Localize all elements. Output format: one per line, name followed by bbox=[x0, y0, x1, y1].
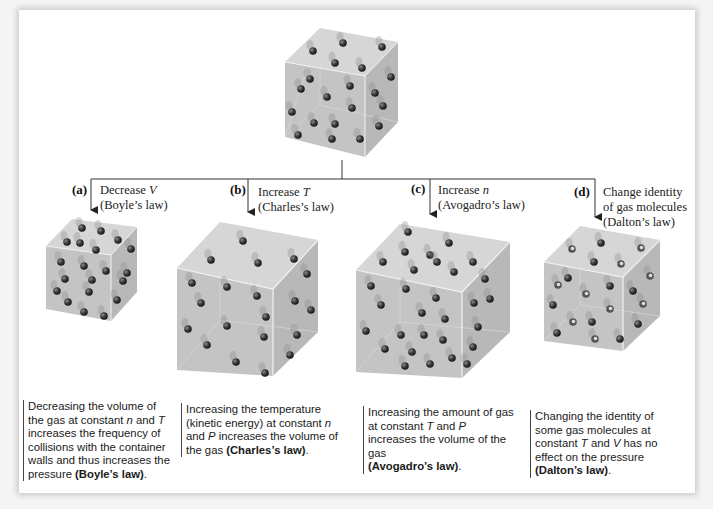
branch-a-label: Decrease V (Boyle’s law) bbox=[100, 183, 168, 213]
branch-b-variable: T bbox=[303, 185, 310, 199]
caption-a-boyles-law: Decreasing the volume of the gas at cons… bbox=[23, 400, 170, 481]
caption-d-var-1: T bbox=[581, 437, 588, 449]
caption-a-text-2: and bbox=[133, 414, 158, 426]
caption-c-var-2: P bbox=[458, 420, 466, 432]
branch-c-label: Increase n (Avogadro’s law) bbox=[438, 183, 525, 213]
caption-d-daltons-law: Changing the identity of some gas molecu… bbox=[530, 410, 681, 478]
caption-d-law: (Dalton’s law) bbox=[535, 464, 608, 476]
caption-c-text-2: and bbox=[433, 420, 458, 432]
caption-b-charles-law: Increasing the temperature (kinetic ener… bbox=[181, 403, 346, 457]
cube-d-changed-identity bbox=[544, 226, 660, 351]
branch-a-variable: V bbox=[149, 183, 157, 197]
cube-a-decreased-volume bbox=[46, 217, 137, 321]
caption-d-text-2: and bbox=[588, 437, 613, 449]
caption-c-law: (Avogadro’s law) bbox=[368, 460, 458, 472]
branch-c-change: Increase bbox=[438, 183, 483, 197]
cube-b-increased-temperature bbox=[177, 222, 318, 377]
initial-gas-container-cube bbox=[285, 28, 398, 157]
cube-c-increased-moles bbox=[356, 221, 510, 378]
branch-d-label: Change identity of gas molecules (Dalton… bbox=[603, 185, 695, 230]
branch-d-tag: (d) bbox=[574, 184, 590, 200]
caption-b-period: . bbox=[306, 444, 309, 456]
caption-b-text-2: and bbox=[186, 430, 208, 442]
caption-a-law: (Boyle’s law) bbox=[75, 468, 144, 480]
caption-c-avogadros-law: Increasing the amount of gas at constant… bbox=[363, 406, 516, 474]
caption-c-period: . bbox=[458, 460, 461, 472]
branch-b-label: Increase T (Charles’s law) bbox=[258, 185, 334, 215]
branch-c-variable: n bbox=[483, 183, 489, 197]
branch-a-tag: (a) bbox=[72, 182, 87, 198]
branch-c-tag: (c) bbox=[411, 181, 425, 197]
branch-c-law: (Avogadro’s law) bbox=[438, 198, 525, 212]
caption-b-var-1: n bbox=[325, 417, 331, 429]
caption-d-period: . bbox=[608, 464, 611, 476]
branch-b-change: Increase bbox=[258, 185, 303, 199]
caption-a-var-2: T bbox=[158, 414, 165, 426]
caption-b-text-1: Increasing the temperature (kinetic ener… bbox=[186, 403, 325, 429]
caption-c-text-3: increases the volume of the gas bbox=[368, 433, 506, 459]
branch-b-tag: (b) bbox=[230, 182, 246, 198]
caption-b-var-2: P bbox=[208, 430, 216, 442]
branch-a-change: Decrease bbox=[100, 183, 149, 197]
caption-a-period: . bbox=[144, 468, 147, 480]
branch-b-law: (Charles’s law) bbox=[258, 200, 334, 214]
branch-a-law: (Boyle’s law) bbox=[100, 198, 168, 212]
caption-b-law: (Charles’s law) bbox=[226, 444, 305, 456]
branch-d-change: Change identity of gas molecules bbox=[603, 185, 687, 214]
branch-d-law: (Dalton’s law) bbox=[603, 215, 675, 229]
